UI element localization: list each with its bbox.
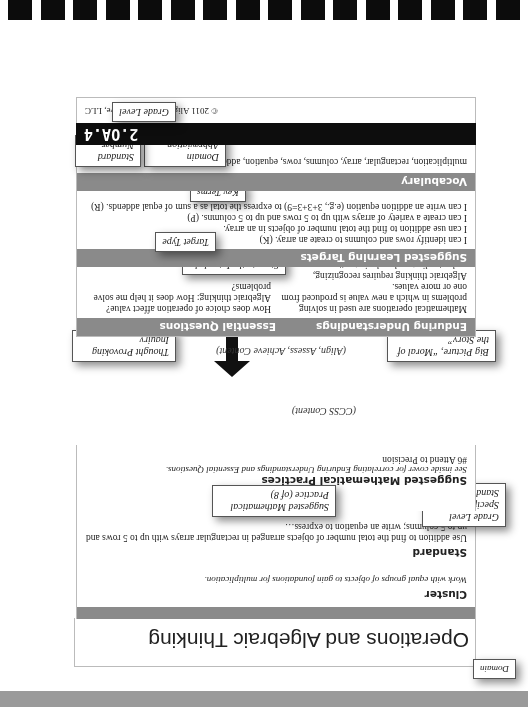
target-item: I can use addition to find the total num… xyxy=(85,223,467,234)
standard-code: 2.OA.4 xyxy=(84,125,138,143)
target-item: I can write an addition equation (e.g., … xyxy=(85,201,467,212)
question-item: Algebraic thinking: How does it help me … xyxy=(85,281,271,303)
eu-eq-bar: Enduring Understandings Essential Questi… xyxy=(77,318,475,336)
target-item: I can identify rows and columns to creat… xyxy=(85,234,467,245)
question-item: How does choice of operation affect valu… xyxy=(85,303,271,314)
understanding-item: Mathematical operations are used in solv… xyxy=(281,281,467,314)
cluster-section: Cluster Work with equal groups of object… xyxy=(76,563,476,619)
callout-grade-level: Grade Level xyxy=(112,102,176,122)
targets-section: Suggested Learning Targets I can identif… xyxy=(76,191,476,267)
target-item: I can create a variety of arrays with up… xyxy=(85,212,467,223)
top-gray-band xyxy=(0,691,528,707)
practices-note: See inside cover for correlating Endurin… xyxy=(85,465,467,475)
standard-code-bar: 2.OA.4 xyxy=(76,123,476,145)
vocabulary-bar: Vocabulary xyxy=(77,173,475,191)
targets-bar: Suggested Learning Targets xyxy=(77,249,475,267)
questions-label: Essential Questions xyxy=(85,321,276,333)
callout-practice: Suggested Mathematical Practice (of 8) xyxy=(212,485,336,517)
aaa-content-note: (Align, Assess, Achieve Content) xyxy=(216,346,346,357)
standard-section: Standard Use addition to find the total … xyxy=(76,511,476,563)
understandings-label: Enduring Understandings xyxy=(276,321,467,333)
domain-title: Operations and Algebraic Thinking xyxy=(148,628,469,652)
spiral-binding xyxy=(0,0,528,20)
ccss-content-note: (CCSS Content) xyxy=(292,406,356,417)
cluster-text: Work with equal groups of objects to gai… xyxy=(85,575,467,585)
document-page: Operations and Algebraic Thinking Domain… xyxy=(0,0,528,707)
cluster-bar xyxy=(77,607,475,619)
callout-domain: Domain xyxy=(473,659,516,679)
domain-header: Operations and Algebraic Thinking xyxy=(74,618,476,667)
eu-eq-section: Enduring Understandings Essential Questi… xyxy=(76,267,476,337)
callout-target-type: Target Type xyxy=(155,232,216,252)
standard-text: Use addition to find the total number of… xyxy=(85,521,467,543)
practice-item: #6 Attend to Precision xyxy=(85,454,467,465)
cluster-label: Cluster xyxy=(85,589,467,601)
standards-card: Operations and Algebraic Thinking Domain… xyxy=(76,37,476,667)
standard-label: Standard xyxy=(85,547,467,559)
